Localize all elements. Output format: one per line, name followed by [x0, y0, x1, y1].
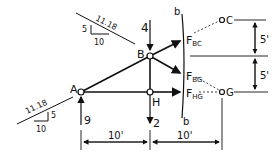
section-label-top: b	[174, 6, 180, 17]
dim-h-left: 10'	[108, 130, 123, 141]
node-b	[147, 53, 153, 59]
reaction-a-value: 9	[84, 114, 91, 127]
truss-diagram: b b A B H C G FBC FBG FHG 4 2 9 11.18 5 …	[0, 0, 279, 161]
dim-h-right: 10'	[177, 130, 192, 141]
label-fhg: FHG	[186, 87, 203, 101]
section-label-bottom: b	[183, 116, 189, 127]
load-h-value: 2	[153, 117, 160, 130]
node-h	[147, 89, 153, 95]
section-line	[182, 14, 184, 118]
node-c	[220, 18, 225, 23]
diagram-canvas: b b A B H C G FBC FBG FHG 4 2 9 11.18 5 …	[0, 0, 279, 161]
force-arrow-bg	[150, 56, 180, 73]
truss-members	[81, 41, 180, 92]
slope-bottom-rise: 5	[51, 111, 56, 120]
slope-top-rise: 5	[82, 25, 87, 34]
slope-bottom-run: 10	[36, 125, 46, 134]
label-c: C	[226, 15, 233, 26]
slope-bottom-hyp: 11.18	[24, 98, 49, 116]
dim-v-top: 5'	[260, 34, 269, 45]
node-a	[78, 89, 84, 95]
node-g	[220, 90, 225, 95]
slope-top-run: 10	[94, 38, 104, 47]
force-arrow-bc	[150, 41, 180, 56]
label-a: A	[70, 83, 78, 96]
label-b: B	[137, 48, 145, 61]
label-fbc: FBC	[186, 34, 202, 48]
label-fbg: FBG	[186, 70, 202, 84]
load-b-value: 4	[141, 21, 149, 35]
label-h: H	[152, 96, 160, 109]
label-g: G	[226, 87, 234, 98]
member-ab	[81, 56, 150, 92]
dim-v-bottom: 5'	[260, 70, 269, 81]
